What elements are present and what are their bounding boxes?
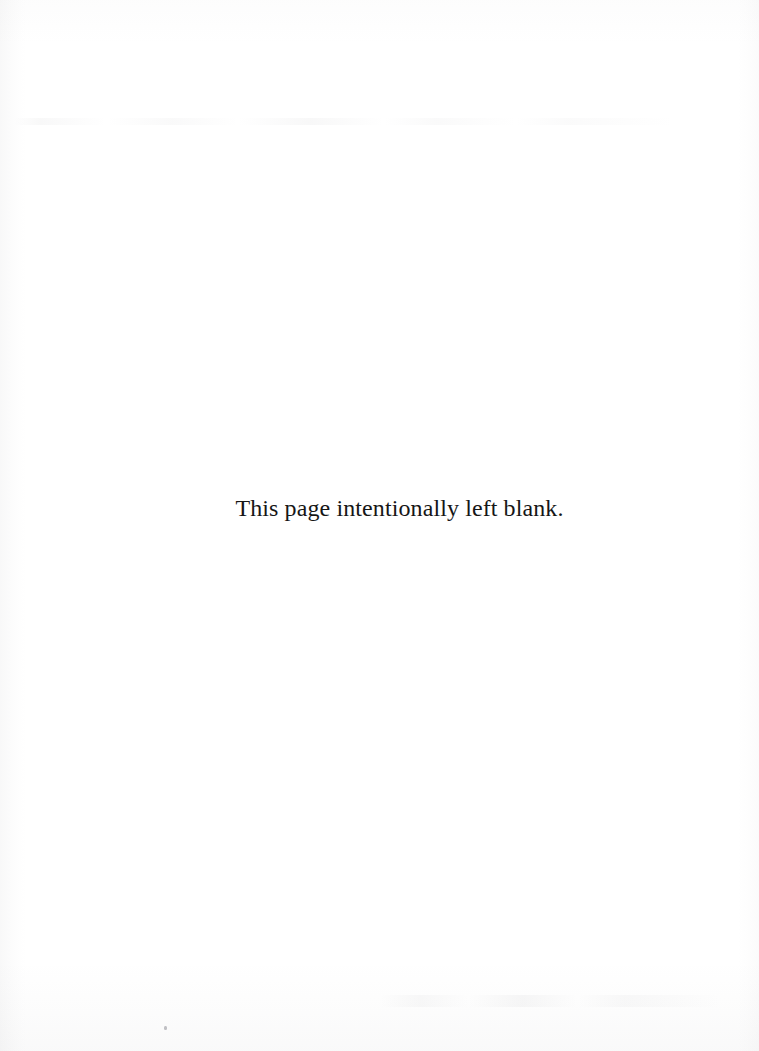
bleed-through-ghost-bottom: [380, 995, 720, 1007]
scan-top-tone: [0, 0, 759, 46]
bleed-through-ghost-top: [14, 118, 674, 125]
intentionally-blank-notice: This page intentionally left blank.: [0, 494, 759, 522]
scanned-page: This page intentionally left blank.: [0, 0, 759, 1051]
dust-speck: [164, 1026, 167, 1030]
scan-left-edge-shadow: [0, 0, 26, 1051]
scan-bottom-tone: [0, 961, 759, 1051]
scan-right-edge-shadow: [737, 0, 759, 1051]
